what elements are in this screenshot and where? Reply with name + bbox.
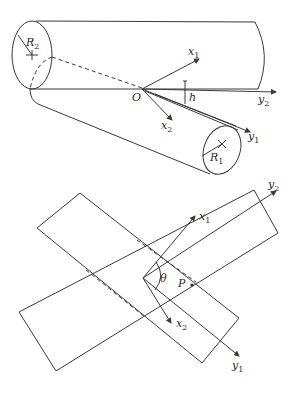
top-figure: R2 O h x1 x2 y2 y1 R1 [12,21,276,180]
upper-cylinder-top-edge [36,21,255,22]
h-label: h [189,91,196,104]
y2-axis-arrow-bottom [143,191,276,278]
upper-cylinder-far-end [255,22,264,89]
hidden-edge-lower [86,270,145,317]
x2-axis-arrow [142,89,172,120]
lower-cylinder-near-end [30,89,38,104]
O-label: O [132,91,141,104]
y2-strip-rectangle [19,190,278,371]
x2-label-top: x2 [161,119,172,134]
point-P [190,283,193,286]
y1-label-bottom: y1 [231,359,243,374]
y1-axis-arrow-bottom [143,278,239,356]
bottom-figure: θ P x1 x2 y1 y2 [19,178,279,374]
upper-cylinder [12,21,264,89]
P-label: P [177,277,186,290]
upper-cylinder-hidden-line [52,57,145,89]
crossed-cylinders-diagram: R2 O h x1 x2 y2 y1 R1 θ P x1 x2 y1 y2 [0,0,293,394]
x1-label-top: x1 [188,45,199,60]
x2-label-bottom: x2 [176,317,187,332]
x1-label-bottom: x1 [199,210,210,225]
y2-label-bottom: y2 [267,178,279,193]
lower-cylinder-bottom-edge [38,104,210,174]
theta-label: θ [160,272,167,285]
x1-axis-arrow-bottom [143,216,195,278]
x2-axis-arrow-bottom [143,278,171,323]
R2-label: R2 [25,36,39,51]
y2-label-top: y2 [257,93,269,108]
y1-label-top: y1 [247,130,259,145]
lower-cylinder-end-cap [197,120,248,179]
x1-axis-arrow [142,59,199,89]
R1-label: R1 [209,151,223,166]
